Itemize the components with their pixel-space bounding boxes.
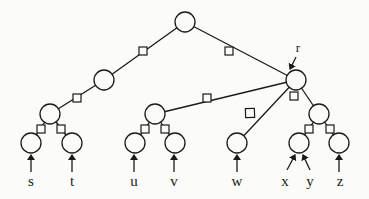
input-arrows-layer: stuvwxyz (28, 155, 344, 189)
edge-markers-layer (37, 47, 334, 133)
node-s (21, 133, 41, 153)
node-ll (40, 104, 60, 124)
node-mid (145, 104, 165, 124)
square-marker (203, 94, 211, 102)
node-rr (309, 104, 329, 124)
input-label-y: y (306, 173, 314, 189)
r-pointer: r (290, 40, 301, 69)
input-label-x: x (281, 173, 289, 189)
nodes-layer (21, 12, 349, 153)
square-marker (326, 125, 334, 133)
input-label-s: s (28, 173, 34, 189)
r-label: r (296, 40, 301, 55)
node-w (227, 133, 247, 153)
arrow-icon (290, 57, 296, 69)
square-marker (139, 47, 147, 55)
diamond-marker (245, 108, 254, 117)
square-marker (161, 125, 169, 133)
arrow-icon (287, 155, 295, 170)
node-u (125, 133, 145, 153)
node-xy (289, 133, 309, 153)
tree-svg: stuvwxyz r (0, 0, 369, 199)
arrow-icon (303, 155, 310, 170)
input-label-t: t (70, 173, 75, 189)
input-label-w: w (232, 173, 243, 189)
square-marker (57, 125, 65, 133)
square-marker (290, 92, 298, 100)
edge-root-r (185, 22, 296, 80)
node-left (94, 70, 114, 90)
node-v (165, 133, 185, 153)
square-marker (141, 125, 149, 133)
node-root (175, 12, 195, 32)
square-marker (225, 47, 233, 55)
node-z (329, 133, 349, 153)
node-t (62, 133, 82, 153)
square-marker (73, 94, 81, 102)
input-label-v: v (170, 173, 178, 189)
edge-r-mid (155, 80, 296, 114)
square-marker (37, 125, 45, 133)
input-label-u: u (130, 173, 138, 189)
square-marker (305, 125, 313, 133)
node-r (286, 70, 306, 90)
tree-diagram: stuvwxyz r (0, 0, 369, 199)
input-label-z: z (337, 173, 344, 189)
